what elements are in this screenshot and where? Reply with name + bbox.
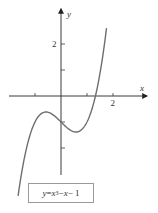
y-tick-label: 2 [52, 39, 57, 49]
series-line [18, 28, 106, 196]
y-axis-label: y [66, 9, 71, 19]
legend: y = x 3 − x − 1 [28, 183, 94, 203]
legend-tail: − 1 [68, 188, 80, 198]
x-axis-label: x [139, 83, 144, 93]
chart: 22 x y [0, 0, 158, 213]
x-tick-label: 2 [111, 98, 116, 108]
